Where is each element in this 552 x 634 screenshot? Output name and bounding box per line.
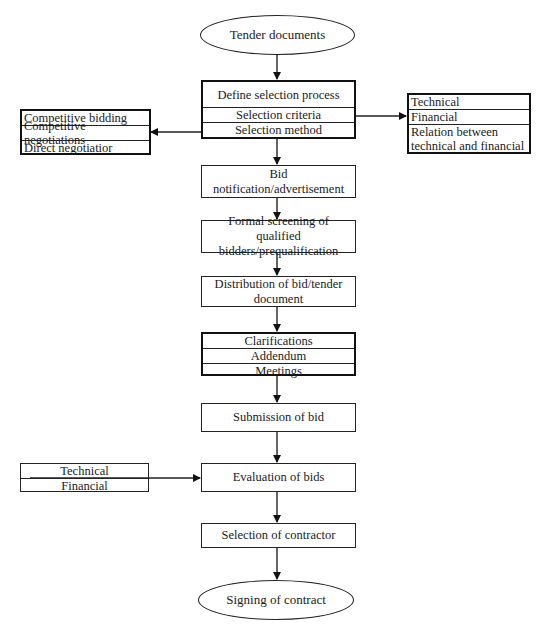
start-node-tender-documents: Tender documents bbox=[200, 15, 355, 55]
step-formal-screening-label: Formal screening of qualified bidders/pr… bbox=[206, 214, 351, 259]
clarifications-box: Clarifications Addendum Meetings bbox=[201, 332, 356, 376]
step-distribution-label: Distribution of bid/tender document bbox=[206, 277, 351, 307]
define-selection-process-row: Define selection process bbox=[203, 82, 354, 107]
method-competitive-negotiations: Competitive negotiations bbox=[22, 125, 149, 140]
addendum-row: Addendum bbox=[203, 348, 354, 363]
step-submission: Submission of bid bbox=[201, 403, 356, 432]
define-selection-process-box: Define selection process Selection crite… bbox=[201, 80, 356, 139]
evaluation-technical: Technical bbox=[21, 464, 148, 478]
meetings-row: Meetings bbox=[203, 363, 354, 378]
evaluation-financial: Financial bbox=[21, 478, 148, 493]
step-selection-of-contractor: Selection of contractor bbox=[201, 523, 356, 548]
selection-criteria-row: Selection criteria bbox=[203, 107, 354, 122]
step-evaluation-label: Evaluation of bids bbox=[233, 470, 325, 485]
selection-methods-box: Competitive bidding Competitive negotiat… bbox=[20, 109, 151, 155]
step-submission-label: Submission of bid bbox=[233, 410, 324, 425]
method-direct-negotiation: Direct negotiatior bbox=[22, 140, 149, 155]
step-evaluation: Evaluation of bids bbox=[201, 463, 356, 492]
end-node-signing-of-contract: Signing of contract bbox=[198, 580, 354, 620]
step-formal-screening: Formal screening of qualified bidders/pr… bbox=[201, 220, 356, 253]
clarifications-row: Clarifications bbox=[203, 334, 354, 348]
evaluation-inputs-box: Technical Financial bbox=[20, 463, 149, 492]
criteria-relation: Relation between technical and financial bbox=[409, 124, 529, 153]
step-selection-label: Selection of contractor bbox=[222, 528, 336, 543]
step-bid-notification: Bid notification/advertisement bbox=[201, 165, 356, 198]
step-bid-notification-label: Bid notification/advertisement bbox=[206, 167, 351, 197]
criteria-technical: Technical bbox=[409, 95, 529, 109]
end-node-label: Signing of contract bbox=[226, 592, 326, 608]
criteria-financial: Financial bbox=[409, 109, 529, 124]
step-distribution: Distribution of bid/tender document bbox=[201, 276, 356, 307]
selection-criteria-box: Technical Financial Relation between tec… bbox=[407, 93, 531, 154]
selection-method-row: Selection method bbox=[203, 122, 354, 137]
start-node-label: Tender documents bbox=[230, 27, 325, 43]
